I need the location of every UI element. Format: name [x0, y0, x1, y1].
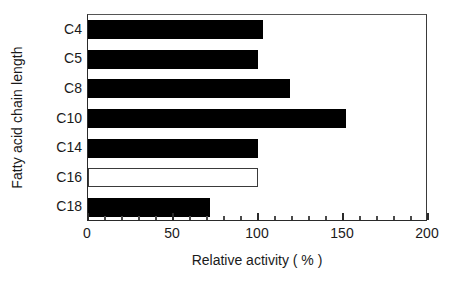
- x-axis-tick-labels: 050100150200: [87, 226, 427, 246]
- x-minor-tick-130: [308, 216, 309, 220]
- x-minor-tick-190: [410, 216, 411, 220]
- category-label-c16: C16: [56, 170, 82, 184]
- category-label-c18: C18: [56, 199, 82, 213]
- x-minor-tick-90: [240, 216, 241, 220]
- x-minor-tick-180: [393, 216, 394, 220]
- bar-c4: [88, 20, 263, 39]
- x-major-tick-200: [427, 213, 428, 220]
- x-minor-tick-170: [376, 216, 377, 220]
- x-minor-tick-110: [274, 216, 275, 220]
- x-minor-tick-30: [138, 216, 139, 220]
- bar-c16: [88, 168, 258, 187]
- bar-c8: [88, 79, 290, 98]
- category-label-c4: C4: [64, 22, 82, 36]
- x-minor-tick-70: [206, 216, 207, 220]
- category-label-c5: C5: [64, 51, 82, 65]
- x-major-tick-150: [342, 213, 343, 220]
- category-axis-labels: C4C5C8C10C14C16C18: [36, 14, 84, 221]
- x-major-tick-0: [87, 213, 88, 220]
- x-minor-tick-60: [189, 216, 190, 220]
- x-axis-title: Relative activity ( % ): [87, 252, 427, 268]
- bar-chart: Fatty acid chain length C4C5C8C10C14C16C…: [0, 0, 455, 289]
- x-tick-label-100: 100: [245, 226, 268, 240]
- bar-c10: [88, 109, 346, 128]
- bar-c5: [88, 50, 258, 69]
- x-minor-tick-40: [155, 216, 156, 220]
- x-major-tick-50: [172, 213, 173, 220]
- x-tick-label-50: 50: [164, 226, 180, 240]
- x-minor-tick-80: [223, 216, 224, 220]
- bar-c18: [88, 198, 210, 217]
- x-minor-tick-10: [104, 216, 105, 220]
- x-tick-label-150: 150: [330, 226, 353, 240]
- y-axis-title: Fatty acid chain length: [0, 0, 34, 235]
- x-major-tick-100: [257, 213, 258, 220]
- category-label-c14: C14: [56, 140, 82, 154]
- x-minor-tick-20: [121, 216, 122, 220]
- x-minor-tick-160: [359, 216, 360, 220]
- x-tick-label-200: 200: [415, 226, 438, 240]
- plot-area: [87, 14, 427, 221]
- x-minor-tick-120: [291, 216, 292, 220]
- x-minor-tick-140: [325, 216, 326, 220]
- bar-c14: [88, 139, 258, 158]
- x-tick-label-0: 0: [83, 226, 91, 240]
- category-label-c10: C10: [56, 111, 82, 125]
- category-label-c8: C8: [64, 81, 82, 95]
